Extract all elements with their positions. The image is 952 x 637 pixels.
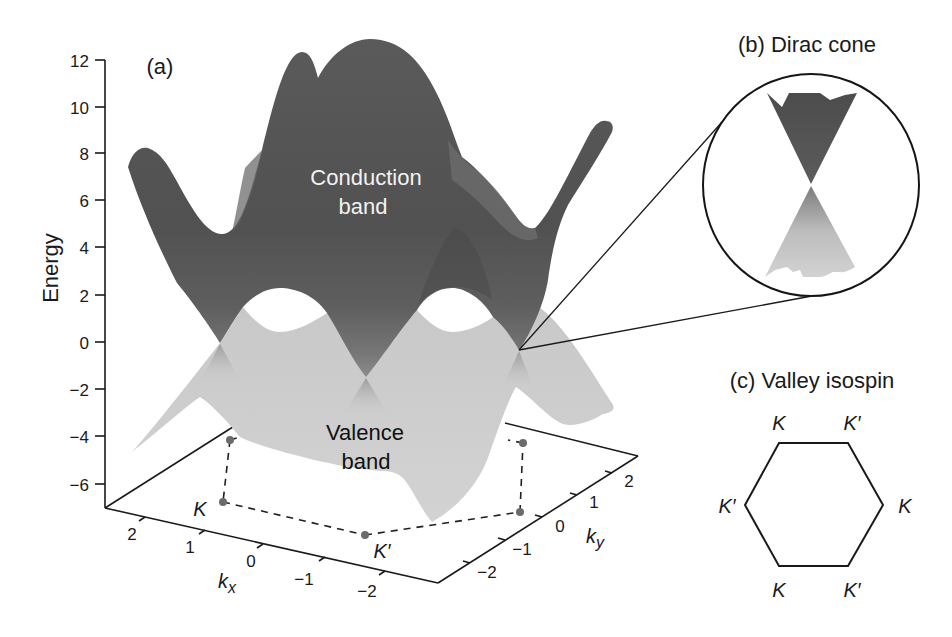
graphene-band-structure-figure: 12 10 8 6 4 2 0 −2 −4 −6 Energy 2 1 0 −1… — [0, 0, 952, 637]
ky-tick-label: 1 — [589, 493, 598, 512]
conduction-band-label-line2: band — [339, 194, 388, 219]
hexagon-vertex-label-left: K′ — [718, 495, 736, 517]
conduction-band-label: Conduction — [310, 165, 421, 190]
ky-tick-label: −1 — [512, 540, 531, 559]
bz-vertex-marker — [519, 439, 527, 447]
k-point-label: K — [193, 498, 208, 520]
hexagon-vertex-label-bottom-right: K′ — [843, 579, 861, 601]
ky-tick-label: 2 — [624, 472, 633, 491]
hexagon-vertex-label-right: K — [898, 495, 913, 517]
kx-tick-label: 2 — [127, 525, 136, 544]
bz-vertex-marker — [516, 508, 524, 516]
kx-subscript: x — [227, 579, 237, 596]
energy-axis-title: Energy — [38, 233, 63, 303]
panel-a-label: (a) — [147, 54, 174, 79]
energy-tick-label: 2 — [80, 287, 89, 306]
energy-tick-label: −6 — [70, 476, 89, 495]
hexagon-vertex-label-top-left: K — [772, 412, 787, 434]
ky-subscript: y — [595, 534, 605, 551]
ky-tick-label: 0 — [555, 517, 564, 536]
energy-tick-label: 4 — [80, 239, 89, 258]
hexagon-vertex-label-top-right: K′ — [843, 412, 861, 434]
kx-tick-label: 1 — [185, 538, 194, 557]
energy-tick-label: −4 — [70, 428, 89, 447]
valence-band-label-line2: band — [342, 449, 391, 474]
energy-tick-label: 6 — [80, 192, 89, 211]
kx-tick-label: −1 — [294, 570, 313, 589]
k-prime-point-label: K′ — [373, 540, 391, 562]
panel-c-title: (c) Valley isospin — [730, 368, 895, 393]
energy-tick-label: 10 — [70, 99, 89, 118]
kx-tick-label: −2 — [357, 582, 376, 601]
bz-vertex-marker — [219, 498, 227, 506]
energy-tick-label: 0 — [80, 334, 89, 353]
energy-tick-label: 12 — [70, 52, 89, 71]
bz-vertex-marker — [226, 436, 234, 444]
valence-band-label: Valence — [326, 420, 404, 445]
energy-tick-label: 8 — [80, 145, 89, 164]
energy-tick-label: −2 — [70, 381, 89, 400]
bz-vertex-marker — [361, 531, 369, 539]
kx-tick-label: 0 — [246, 552, 255, 571]
ky-tick-label: −2 — [477, 563, 496, 582]
panel-b-title: (b) Dirac cone — [738, 32, 876, 57]
hexagon-vertex-label-bottom-left: K — [772, 579, 787, 601]
